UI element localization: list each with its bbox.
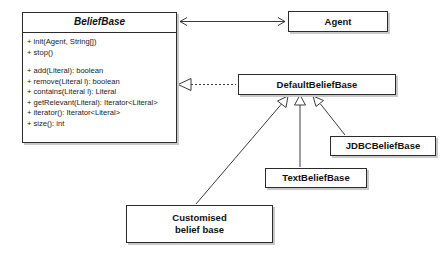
member-item: + size(): int [27,119,176,130]
member-group-operations: + add(Literal): boolean + remove(Literal… [27,66,176,129]
member-item: + iterator(): Iterator<Literal> [27,108,176,119]
class-name-customisedbeliefbase-line2: belief base [175,224,224,236]
class-name-textbeliefbase: TextBeliefBase [282,172,349,184]
edge-defaultbeliefbase-realizes-beliefbase [178,79,236,91]
member-group-lifecycle: + init(Agent, String[]) + stop() [27,37,176,58]
class-box-customisedbeliefbase[interactable]: Customised belief base [126,205,273,243]
member-item: + remove(Literal l): boolean [27,77,176,88]
member-item: + contains(Literal l): Literal [27,87,176,98]
class-box-textbeliefbase[interactable]: TextBeliefBase [265,168,367,188]
edge-jdbcbeliefbase-extends-defaultbeliefbase [313,96,345,135]
edge-textbeliefbase-extends-defaultbeliefbase [295,95,306,167]
member-item: + getRelevant(Literal): Iterator<Literal… [27,98,176,109]
uml-class-diagram: BeliefBase + init(Agent, String[]) + sto… [0,0,448,260]
class-header-beliefbase: BeliefBase [23,13,176,33]
class-name-customisedbeliefbase-line1: Customised [172,212,226,224]
class-box-jdbcbeliefbase[interactable]: JDBCBeliefBase [330,136,436,156]
class-box-defaultbeliefbase[interactable]: DefaultBeliefBase [238,74,396,95]
edge-beliefbase-agent [180,18,285,26]
class-name-jdbcbeliefbase: JDBCBeliefBase [346,140,420,152]
class-name-agent: Agent [325,16,352,28]
member-item: + init(Agent, String[]) [27,37,176,48]
class-box-beliefbase[interactable]: BeliefBase + init(Agent, String[]) + sto… [22,12,177,143]
member-item: + add(Literal): boolean [27,66,176,77]
member-item: + stop() [27,48,176,59]
class-name-defaultbeliefbase: DefaultBeliefBase [277,79,358,91]
class-name-beliefbase: BeliefBase [74,16,125,29]
class-box-agent[interactable]: Agent [288,11,388,32]
class-members-beliefbase: + init(Agent, String[]) + stop() + add(L… [23,33,176,129]
